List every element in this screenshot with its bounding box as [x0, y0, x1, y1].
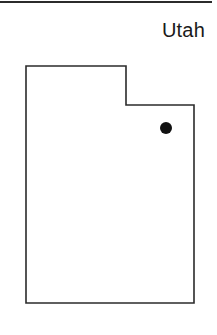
- utah-state-outline: [26, 66, 194, 303]
- state-map-svg: [0, 0, 217, 335]
- state-map-figure: Utah: [0, 0, 217, 335]
- city-marker-dot: [160, 122, 172, 134]
